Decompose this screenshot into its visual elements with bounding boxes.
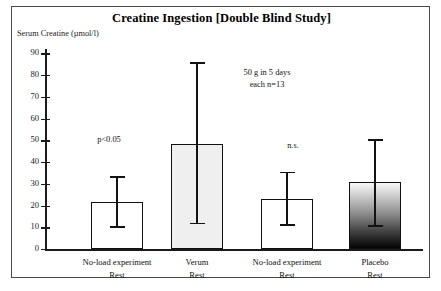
error-bar-cap-1-low	[110, 226, 125, 228]
y-tick-mark	[41, 206, 50, 207]
y-axis-line	[45, 49, 47, 250]
page-title: Creatine Ingestion [Double Blind Study]	[12, 11, 431, 26]
dose-annotation-line1: 50 g in 5 days	[244, 68, 291, 77]
y-tick-mark	[41, 162, 50, 163]
y-tick-mark	[41, 249, 50, 250]
screenshot-canvas: Creatine Ingestion [Double Blind Study] …	[0, 0, 441, 291]
y-tick-mark	[41, 140, 50, 141]
x-axis-label-4: PlaceboRest	[315, 257, 435, 280]
x-axis-label-group: Placebo	[315, 257, 435, 267]
figure-frame: Creatine Ingestion [Double Blind Study] …	[11, 6, 430, 278]
y-tick-label: 20	[30, 200, 39, 210]
y-tick-mark	[41, 184, 50, 185]
y-axis-caption: Serum Creatine (µmol/l)	[17, 29, 99, 38]
y-tick-label: 30	[30, 178, 39, 188]
error-bar-line-2	[196, 62, 198, 223]
error-bar-cap-3-low	[280, 224, 295, 226]
y-tick-mark	[41, 119, 50, 120]
y-tick-mark	[41, 75, 50, 76]
y-tick-mark	[41, 53, 50, 54]
y-tick-label: 0	[35, 243, 39, 253]
error-bar-cap-3-high	[280, 172, 295, 174]
x-axis-line	[45, 249, 423, 251]
error-bar-cap-2-high	[190, 62, 205, 64]
significance-label-bar1: p<0.05	[69, 135, 149, 144]
y-tick-label: 70	[30, 91, 39, 101]
dose-annotation-line2: each n=13	[250, 80, 285, 89]
y-tick-mark	[41, 97, 50, 98]
error-bar-cap-4-high	[368, 139, 383, 141]
error-bar-line-3	[286, 172, 288, 224]
y-tick-label: 40	[30, 156, 39, 166]
error-bar-cap-2-low	[190, 223, 205, 225]
y-tick-label: 80	[30, 69, 39, 79]
error-bar-cap-4-low	[368, 225, 383, 227]
error-bar-cap-1-high	[110, 176, 125, 178]
significance-label-bar3: n.s.	[263, 141, 323, 150]
y-tick-label: 10	[30, 221, 39, 231]
y-tick-mark	[41, 227, 50, 228]
y-tick-label: 90	[30, 47, 39, 57]
y-tick-label: 60	[30, 113, 39, 123]
plot-area: 0102030405060708090 50 g in 5 days each …	[45, 49, 423, 252]
error-bar-line-4	[374, 139, 376, 225]
y-tick-label: 50	[30, 134, 39, 144]
x-axis-label-condition: Rest	[315, 270, 435, 280]
dose-annotation: 50 g in 5 days each n=13	[207, 67, 327, 90]
error-bar-line-1	[116, 176, 118, 226]
